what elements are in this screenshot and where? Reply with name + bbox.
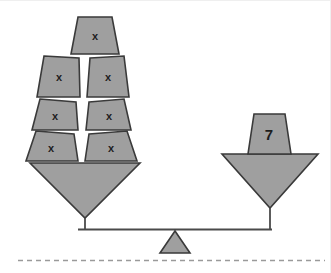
left-weight-left-lower: x <box>26 131 78 161</box>
left-weight-right-upper: x <box>87 56 129 97</box>
right-pan-bowl <box>222 154 318 208</box>
left-weight-top: x <box>71 17 119 54</box>
left-weight-left-upper: x <box>37 56 80 97</box>
balance-scale-figure: x x x x x x <box>0 0 331 273</box>
left-weight-left-lower-label: x <box>48 142 55 154</box>
left-weight-right-lower-label: x <box>108 142 115 154</box>
right-weight-single: 7 <box>248 114 291 154</box>
left-weight-right-lower: x <box>85 131 137 161</box>
right-weight-single-label: 7 <box>265 126 273 143</box>
left-weight-left-mid: x <box>32 99 78 130</box>
right-pan-group: 7 <box>222 114 318 229</box>
scale-canvas: x x x x x x <box>0 0 331 273</box>
left-pan-group: x x x x x x <box>26 17 140 229</box>
left-weight-left-upper-label: x <box>56 71 63 83</box>
left-weight-right-upper-label: x <box>105 71 112 83</box>
fulcrum-triangle <box>160 231 190 253</box>
left-weight-left-mid-label: x <box>52 110 59 122</box>
left-pan-bowl <box>30 163 140 218</box>
left-weight-right-mid: x <box>86 99 131 130</box>
left-weight-top-label: x <box>92 30 99 42</box>
left-weight-right-mid-label: x <box>106 110 113 122</box>
